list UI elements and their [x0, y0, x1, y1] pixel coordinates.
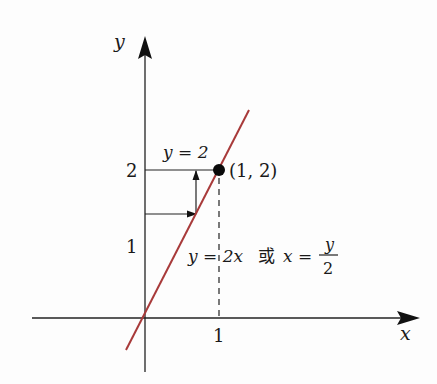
x-axis — [32, 311, 420, 325]
x-tick-1: 1 — [213, 325, 224, 346]
y-axis-label: y — [113, 30, 125, 52]
x-axis-label: x — [400, 322, 411, 344]
fraction-numerator: y — [324, 235, 335, 254]
point-marker — [213, 164, 225, 176]
equation-connector: 或 — [258, 246, 275, 266]
y-tick-1: 1 — [126, 236, 137, 257]
function-diagram: y x 1 1 2 y = 2 (1, 2) y = 2x 或 x = y 2 — [0, 0, 437, 384]
y-equals-2-label: y = 2 — [162, 142, 208, 162]
y-tick-2: 2 — [126, 160, 137, 181]
fraction-denominator: 2 — [323, 259, 333, 278]
point-label: (1, 2) — [229, 160, 277, 181]
equation-right-lhs: x = — [283, 246, 312, 266]
equation-left: y = 2x — [187, 246, 243, 266]
equation-label: y = 2x 或 x = y 2 — [187, 235, 338, 278]
